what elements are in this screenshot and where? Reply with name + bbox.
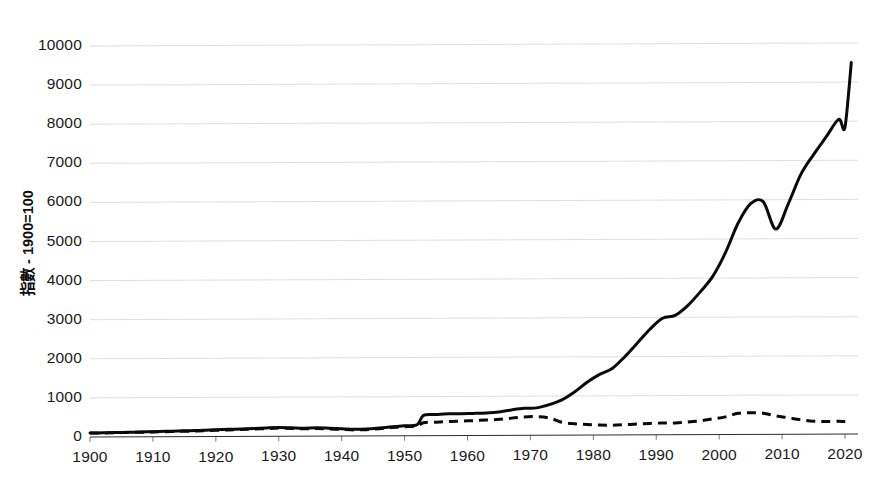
y-tick-label: 6000	[47, 192, 82, 209]
y-tick-label: 7000	[47, 153, 82, 170]
x-tick-label: 2020	[827, 445, 862, 462]
y-tick-label: 0	[73, 427, 82, 444]
line-chart: 0100020003000400050006000700080009000100…	[0, 0, 890, 501]
x-tick-label: 1910	[135, 448, 170, 465]
y-tick-label: 8000	[47, 114, 82, 131]
x-tick-label: 1930	[261, 447, 296, 464]
x-tick-label: 2000	[702, 446, 737, 463]
y-tick-label: 9000	[47, 75, 82, 92]
chart-container: 0100020003000400050006000700080009000100…	[0, 0, 890, 501]
y-tick-label: 2000	[47, 349, 82, 366]
x-tick-label: 2010	[764, 445, 799, 462]
y-tick-label: 3000	[47, 310, 82, 327]
chart-background	[0, 0, 890, 501]
x-tick-label: 1990	[639, 446, 674, 463]
y-axis-title: 指數 - 1900=100	[19, 190, 36, 296]
y-tick-label: 1000	[47, 388, 82, 405]
x-tick-label: 1980	[576, 446, 611, 463]
x-tick-label: 1940	[324, 447, 359, 464]
x-tick-label: 1960	[450, 447, 485, 464]
y-tick-label: 4000	[47, 271, 82, 288]
x-tick-label: 1920	[198, 448, 233, 465]
x-tick-label: 1970	[513, 446, 548, 463]
x-tick-label: 1900	[72, 448, 107, 465]
x-tick-label: 1950	[387, 447, 422, 464]
y-tick-label: 5000	[47, 232, 82, 249]
y-tick-label: 10000	[38, 36, 82, 53]
